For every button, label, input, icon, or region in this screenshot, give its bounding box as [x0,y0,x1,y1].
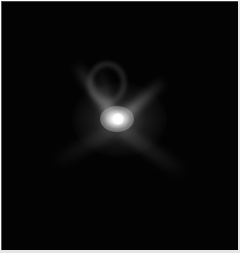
core-peak [112,113,124,125]
ejecta-loop [88,62,126,104]
image-frame [1,1,238,251]
right-border [238,0,240,253]
